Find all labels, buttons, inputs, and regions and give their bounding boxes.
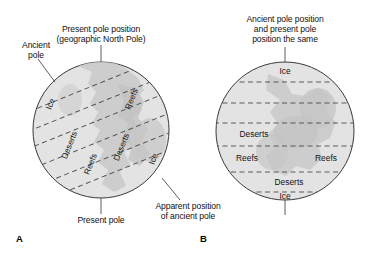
band-label-b-reefs-right: Reefs	[315, 153, 337, 163]
leader-apparent-position	[162, 178, 180, 200]
band-label-b-ice-top: Ice	[279, 66, 291, 76]
callout-present-pole: Present pole	[64, 215, 138, 225]
band-label-b-ice-bottom: Ice	[279, 191, 291, 201]
panel-a-title-line1: Present pole position	[39, 24, 163, 34]
panel-b-title-line1: Ancient pole position	[224, 14, 346, 24]
band-label-b-deserts-upper: Deserts	[240, 129, 269, 139]
band-label-b-reefs-left: Reefs	[236, 153, 258, 163]
callout-ancient-pole-line1: Ancient	[8, 40, 64, 50]
callout-ancient-pole-line2: pole	[8, 50, 64, 60]
panel-letter-b: B	[200, 233, 207, 244]
callout-apparent-position-line1: Apparent position	[140, 201, 236, 211]
figure-root: Ice Reefs Deserts Reefs Deserts Ice	[0, 0, 370, 258]
panel-b-title-line2: and present pole	[224, 24, 346, 34]
globe-b: Ice Deserts Reefs Reefs Deserts Ice	[214, 47, 356, 215]
band-label-b-deserts-lower: Deserts	[275, 177, 304, 187]
panel-b-title-line3: position the same	[224, 34, 346, 44]
leader-ancient-pole	[38, 59, 55, 82]
callout-apparent-position-line2: of ancient pole	[140, 211, 236, 221]
panel-letter-a: A	[16, 233, 23, 244]
globe-a: Ice Reefs Deserts Reefs Deserts Ice	[21, 45, 180, 214]
